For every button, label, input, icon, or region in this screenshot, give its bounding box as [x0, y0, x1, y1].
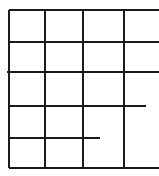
grid-diagram	[0, 0, 159, 176]
